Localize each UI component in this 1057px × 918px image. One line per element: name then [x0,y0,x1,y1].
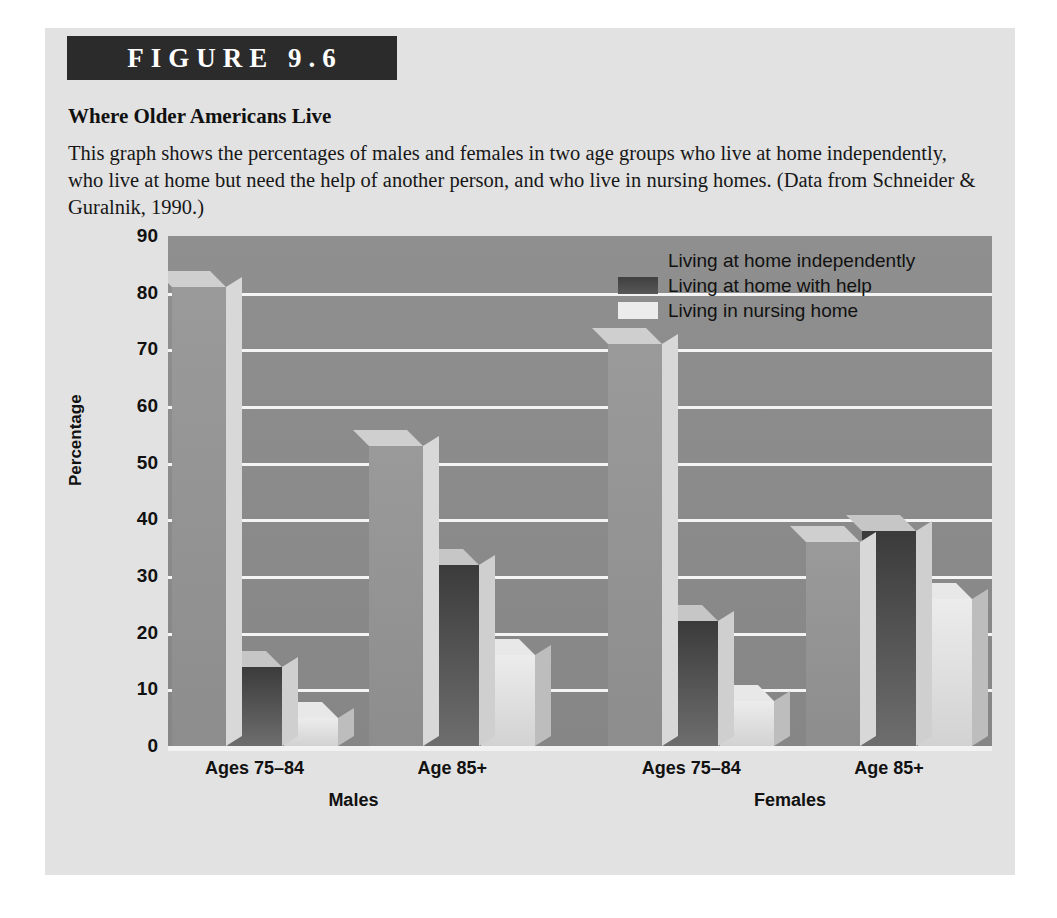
x-axis-group-label: Males [328,790,378,811]
figure-root: FIGURE 9.6 Where Older Americans Live Th… [0,0,1057,918]
bar-side [282,657,298,746]
x-axis-category-label: Age 85+ [417,758,487,779]
bar-top [168,271,226,287]
legend-item: Living at home independently [618,248,978,273]
bar-top [353,430,423,446]
bar-chart: Percentage 9080706050403020100 Living at… [68,236,992,836]
bar-top [846,515,916,531]
bar-face [608,344,662,746]
x-axis-category-label: Ages 75–84 [205,758,304,779]
bar [806,542,860,746]
bar-top [592,328,662,344]
x-axis-line [168,746,992,751]
bar-side [479,555,495,746]
plot-area: Living at home independentlyLiving at ho… [168,236,992,746]
y-axis-tick: 70 [112,338,158,360]
y-axis-label: Percentage [66,394,86,486]
bar-side [662,334,678,746]
y-axis-tick: 40 [112,508,158,530]
bar-side [774,691,790,746]
bar-side [535,645,551,746]
bar [172,287,226,746]
y-axis-tick: 80 [112,282,158,304]
bar [608,344,662,746]
y-axis-ticks: 9080706050403020100 [112,236,158,746]
figure-title: Where Older Americans Live [68,104,948,129]
bar-face [806,542,860,746]
y-axis-tick: 0 [112,735,158,757]
bar-side [423,436,439,746]
bar-top [790,526,860,542]
x-axis-category-label: Ages 75–84 [642,758,741,779]
bar-face [369,446,423,746]
legend-item: Living in nursing home [618,298,978,323]
figure-caption: This graph shows the percentages of male… [68,140,978,221]
legend-swatch [618,277,658,294]
bar-face [172,287,226,746]
legend-label: Living at home independently [668,250,915,272]
bar-side [718,611,734,746]
legend-label: Living in nursing home [668,300,858,322]
figure-panel: FIGURE 9.6 Where Older Americans Live Th… [45,28,1015,875]
figure-number-bar: FIGURE 9.6 [67,36,397,80]
legend-swatch [618,302,658,319]
bar-side [226,277,242,746]
bar-side [972,589,988,746]
x-axis-category-label: Age 85+ [854,758,924,779]
bar-group [369,236,535,746]
bar-side [338,708,354,746]
x-axis-group-label: Females [754,790,826,811]
y-axis-tick: 20 [112,622,158,644]
bar [369,446,423,746]
bar-side [860,532,876,746]
legend-swatch [618,252,658,269]
y-axis-tick: 50 [112,452,158,474]
bar-side [916,521,932,746]
y-axis-tick: 30 [112,565,158,587]
legend-item: Living at home with help [618,273,978,298]
y-axis-tick: 90 [112,225,158,247]
y-axis-tick: 60 [112,395,158,417]
legend-label: Living at home with help [668,275,872,297]
chart-legend: Living at home independentlyLiving at ho… [618,248,978,323]
figure-number-label: FIGURE 9.6 [67,36,397,80]
bar-group [172,236,338,746]
y-axis-tick: 10 [112,678,158,700]
